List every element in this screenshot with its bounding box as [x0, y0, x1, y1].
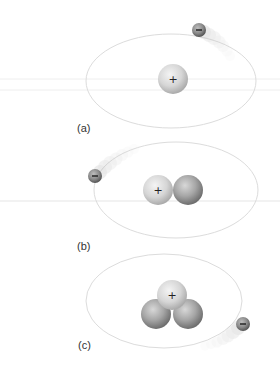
electron-minus-sign [196, 29, 202, 30]
panel-c-atom: + [86, 254, 250, 351]
atom-diagram: + + [0, 0, 280, 375]
panel-a-atom: + [86, 23, 256, 128]
proton-plus-sign: + [167, 289, 176, 302]
panel-b-atom: + [88, 142, 258, 238]
proton-plus-sign: + [168, 73, 177, 86]
proton-plus-sign: + [153, 184, 162, 197]
neutron [173, 175, 203, 205]
electron-minus-sign [92, 175, 98, 176]
panel-label-b: (b) [77, 240, 90, 252]
electron-minus-sign [240, 323, 246, 324]
guide-lines [0, 79, 280, 201]
panel-label-c: (c) [78, 339, 91, 351]
panel-label-a: (a) [77, 122, 90, 134]
